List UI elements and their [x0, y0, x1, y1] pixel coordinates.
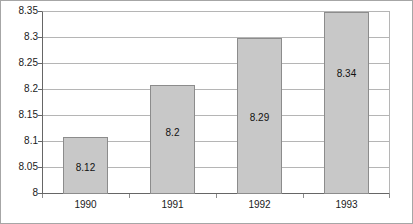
- x-tick-mark-2: [216, 194, 217, 198]
- bar-value-1993: 8.34: [325, 69, 368, 79]
- y-axis-tick-marks: [0, 0, 42, 224]
- x-tick-mark-3: [303, 194, 304, 198]
- bar-1991[interactable]: 8.2: [150, 85, 195, 194]
- x-tick-mark-start: [42, 194, 43, 198]
- x-tick-label-1990: 1990: [42, 199, 129, 210]
- bar-value-1991: 8.2: [151, 128, 194, 138]
- bar-value-1992: 8.29: [238, 113, 281, 123]
- x-tick-label-1993: 1993: [303, 199, 390, 210]
- bar-1992[interactable]: 8.29: [237, 38, 282, 194]
- x-axis-labels: 1990 1991 1992 1993: [42, 199, 390, 215]
- bar-value-1990: 8.12: [64, 163, 107, 173]
- x-tick-label-1991: 1991: [129, 199, 216, 210]
- x-tick-mark-1: [129, 194, 130, 198]
- bar-1993[interactable]: 8.34: [324, 12, 369, 194]
- bar-chart-screenshot: 8.35 8.3 8.25 8.2 8.15 8.1 8.05 8 8.12 8…: [0, 0, 413, 224]
- x-tick-mark-end: [389, 194, 390, 198]
- plot-area: 8.12 8.2 8.29 8.34: [42, 11, 390, 194]
- bar-1990[interactable]: 8.12: [63, 137, 108, 194]
- x-tick-label-1992: 1992: [216, 199, 303, 210]
